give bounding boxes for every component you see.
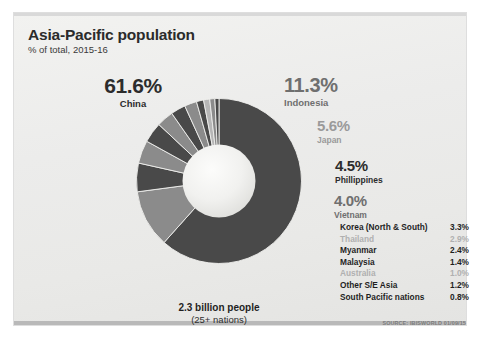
legend-row-value: 1.0% [450,268,469,280]
screenshot-frame: Asia-Pacific population % of total, 2015… [0,0,478,352]
card-top-rule [14,13,466,16]
legend-row: Thailand2.9% [340,234,469,246]
page-subtitle: % of total, 2015-16 [28,44,108,55]
callout-vietnam: 4.0% Vietnam [334,193,367,220]
legend-row: Australia1.0% [340,268,469,280]
callout-indonesia-label: Indonesia [284,98,338,108]
callout-china: 61.6% China [90,75,176,109]
legend-row-value: 0.8% [450,292,469,304]
legend-row: Malaysia1.4% [340,257,469,269]
callout-phillippines-label: Phillippines [335,176,383,185]
legend-row-label: Thailand [340,234,378,246]
legend-row-value: 1.4% [450,257,469,269]
caption-total: 2.3 billion people [134,302,304,314]
donut-center-hole [183,145,256,218]
callout-vietnam-label: Vietnam [334,211,367,220]
legend-row-value: 3.3% [450,222,469,234]
legend-row: South Pacific nations0.8% [340,292,469,304]
legend-row-value: 2.4% [450,245,469,257]
donut-chart [136,98,302,264]
source-note: SOURCE: IBISWORLD 01/09/15 [330,320,466,326]
legend-row: Other S/E Asia1.2% [340,280,469,292]
chart-caption: 2.3 billion people (25+ nations) [134,302,304,326]
caption-nations: (25+ nations) [134,314,304,326]
callout-japan: 5.6% Japan [317,118,350,145]
legend-list: Korea (North & South)3.3%Thailand2.9%Mya… [340,222,469,303]
callout-china-label: China [90,99,176,109]
callout-japan-value: 5.6% [317,118,350,133]
legend-row-label: Korea (North & South) [340,222,432,234]
legend-row-label: South Pacific nations [340,292,428,304]
legend-row-label: Other S/E Asia [340,280,401,292]
callout-phillippines-value: 4.5% [335,158,383,173]
legend-row: Myanmar2.4% [340,245,469,257]
legend-row-label: Myanmar [340,245,380,257]
page-title: Asia-Pacific population [28,26,195,44]
callout-indonesia: 11.3% Indonesia [284,75,338,108]
infographic-card: Asia-Pacific population % of total, 2015… [14,13,466,325]
callout-phillippines: 4.5% Phillippines [335,158,383,185]
legend-row-label: Australia [340,268,380,280]
legend-row-value: 1.2% [450,280,469,292]
callout-vietnam-value: 4.0% [334,193,367,208]
legend-row: Korea (North & South)3.3% [340,222,469,234]
callout-china-value: 61.6% [90,75,176,96]
callout-japan-label: Japan [317,136,350,145]
legend-row-label: Malaysia [340,257,379,269]
donut-chart-svg [136,98,302,264]
callout-indonesia-value: 11.3% [284,75,338,95]
legend-row-value: 2.9% [450,234,469,246]
